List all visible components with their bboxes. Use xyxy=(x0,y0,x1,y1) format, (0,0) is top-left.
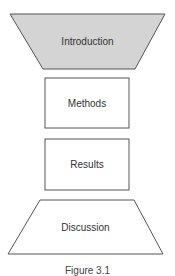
introduction-label: Introduction xyxy=(0,36,175,47)
figure-caption: Figure 3.1 xyxy=(0,265,175,276)
methods-label: Methods xyxy=(45,98,129,109)
discussion-label: Discussion xyxy=(0,222,171,233)
results-label: Results xyxy=(45,159,129,170)
